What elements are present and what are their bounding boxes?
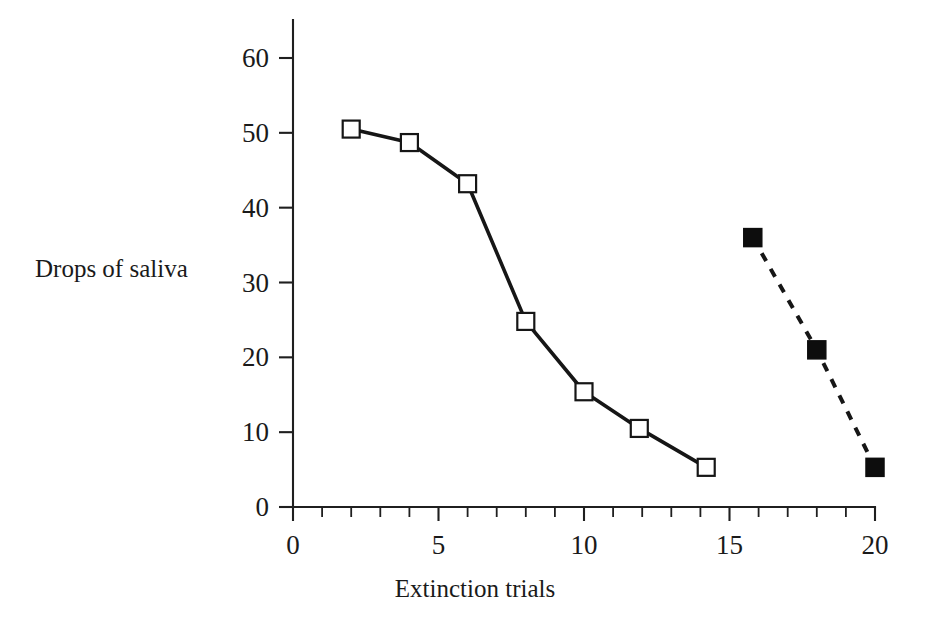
y-axis-tick-labels: 0102030405060	[242, 43, 269, 522]
y-tick-label-30: 30	[242, 268, 269, 298]
chart-markers	[343, 121, 884, 477]
y-axis-title: Drops of saliva	[35, 255, 188, 282]
line-chart-plot: 0102030405060 05101520 Drops of saliva E…	[0, 0, 933, 622]
chart-figure: 0102030405060 05101520 Drops of saliva E…	[0, 0, 933, 622]
marker-extinction-1	[401, 134, 418, 151]
chart-series	[351, 129, 875, 467]
marker-extinction-3	[517, 313, 534, 330]
marker-spontaneous-recovery-1	[808, 341, 826, 359]
x-tick-label-0: 0	[286, 530, 300, 560]
marker-spontaneous-recovery-0	[744, 229, 762, 247]
y-axis-ticks	[279, 58, 293, 507]
y-tick-label-20: 20	[242, 342, 269, 372]
chart-axes	[293, 20, 875, 507]
x-tick-label-20: 20	[862, 530, 889, 560]
marker-extinction-0	[343, 121, 360, 138]
y-tick-label-50: 50	[242, 118, 269, 148]
x-tick-label-10: 10	[571, 530, 598, 560]
marker-extinction-4	[576, 383, 593, 400]
marker-spontaneous-recovery-2	[866, 458, 884, 476]
marker-extinction-5	[631, 420, 648, 437]
marker-extinction-6	[698, 459, 715, 476]
y-tick-label-40: 40	[242, 193, 269, 223]
y-tick-label-10: 10	[242, 417, 269, 447]
y-tick-label-60: 60	[242, 43, 269, 73]
marker-extinction-2	[459, 175, 476, 192]
x-axis-ticks	[293, 507, 875, 521]
x-tick-label-5: 5	[432, 530, 446, 560]
x-axis-title: Extinction trials	[395, 575, 555, 602]
x-axis-tick-labels: 05101520	[286, 530, 888, 560]
series-line-extinction	[351, 129, 706, 467]
x-tick-label-15: 15	[716, 530, 743, 560]
y-tick-label-0: 0	[256, 492, 270, 522]
